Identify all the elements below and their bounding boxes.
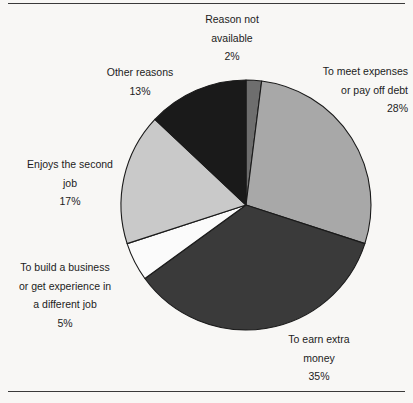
slice-label-line: To earn extra — [258, 330, 380, 349]
slice-label-line: job — [6, 174, 134, 193]
slice-label-enjoys-the-second-job: Enjoys the second job 17% — [6, 155, 134, 211]
slice-percent-value: 35% — [258, 367, 380, 386]
slice-label-line: or get experience in — [2, 277, 128, 296]
slice-label-to-build-a-business: To build a business or get experience in… — [2, 258, 128, 333]
slice-label-line: Other reasons — [78, 63, 202, 82]
slice-label-line: a different job — [2, 295, 128, 314]
slice-label-line: Enjoys the second — [6, 155, 134, 174]
slice-percent-value: 13% — [78, 82, 202, 101]
slice-percent-value: 5% — [2, 314, 128, 333]
slice-percent-value: 28% — [288, 99, 408, 118]
slice-label-line: money — [258, 349, 380, 368]
slice-label-to-earn-extra-money: To earn extra money 35% — [258, 330, 380, 386]
slice-label-other-reasons: Other reasons 13% — [78, 63, 202, 100]
slice-label-line: To meet expenses — [288, 62, 408, 81]
slice-label-line: available — [168, 29, 296, 48]
slice-percent-value: 17% — [6, 192, 134, 211]
slice-label-to-meet-expenses: To meet expenses or pay off debt 28% — [288, 62, 408, 118]
pie-chart-figure: Reason not available 2% To meet expenses… — [0, 0, 413, 403]
slice-label-reason-not-available: Reason not available 2% — [168, 10, 296, 66]
slice-label-line: or pay off debt — [288, 81, 408, 100]
slice-label-line: Reason not — [168, 10, 296, 29]
slice-label-line: To build a business — [2, 258, 128, 277]
bottom-divider-rule — [8, 391, 405, 392]
